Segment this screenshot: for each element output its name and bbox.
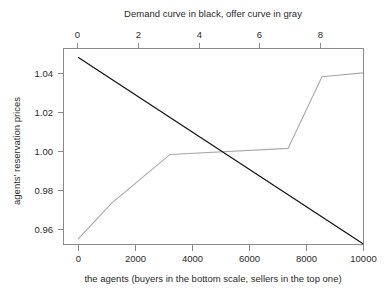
x-tick-label-5: 10000 [350, 253, 376, 264]
x-tick-label-0: 0 [76, 253, 81, 264]
x-tick-label-2: 4000 [182, 253, 203, 264]
top-tick-label-2: 4 [197, 29, 202, 40]
x-tick-label-4: 8000 [296, 253, 317, 264]
y-tick-label-1: 0.98 [35, 185, 54, 196]
x-tick-label-3: 6000 [239, 253, 260, 264]
chart-title: Demand curve in black, offer curve in gr… [124, 8, 302, 19]
figure-background [0, 0, 384, 295]
chart-canvas: Demand curve in black, offer curve in gr… [0, 0, 384, 295]
y-axis-title: agents' reservation prices [11, 97, 22, 205]
y-tick-label-3: 1.02 [35, 107, 54, 118]
top-tick-label-0: 0 [75, 29, 80, 40]
y-tick-label-0: 0.96 [35, 224, 54, 235]
chart-figure: Demand curve in black, offer curve in gr… [0, 0, 384, 295]
top-tick-label-3: 6 [257, 29, 262, 40]
top-tick-label-4: 8 [318, 29, 323, 40]
x-axis-title: the agents (buyers in the bottom scale, … [84, 273, 341, 284]
x-tick-label-1: 2000 [125, 253, 146, 264]
top-tick-label-1: 2 [136, 29, 141, 40]
y-tick-label-4: 1.04 [35, 68, 54, 79]
y-tick-label-2: 1.00 [35, 146, 54, 157]
